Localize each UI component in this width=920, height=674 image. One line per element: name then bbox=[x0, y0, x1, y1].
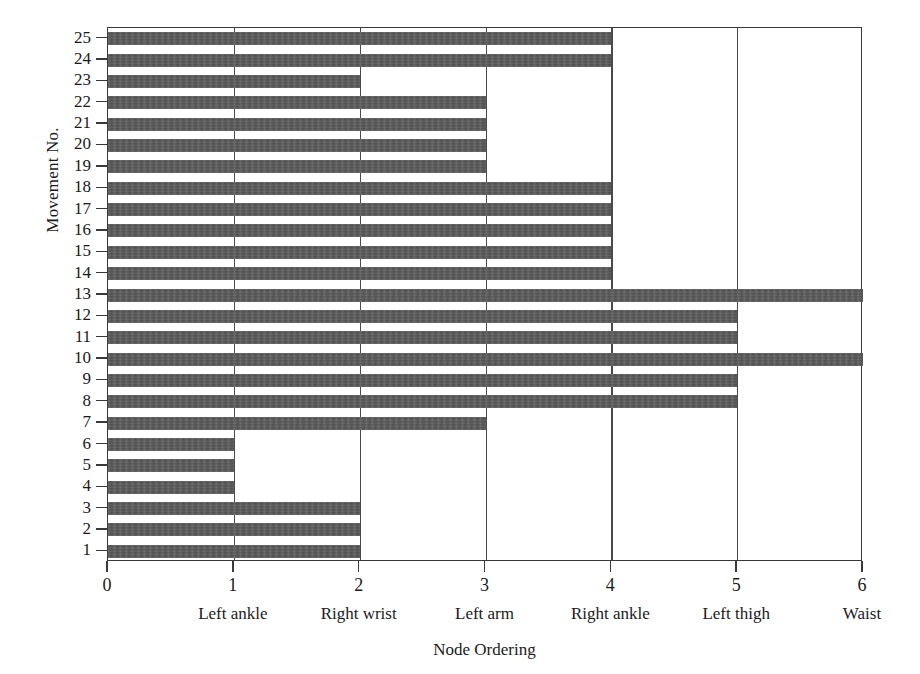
y-tick-22 bbox=[96, 101, 107, 102]
bar-movement-23 bbox=[108, 75, 360, 88]
y-tick-20 bbox=[96, 144, 107, 145]
x-tick-6 bbox=[861, 561, 862, 572]
bar-chart-figure: Movement No. 123456789101112131415161718… bbox=[0, 0, 920, 674]
x-tick-1 bbox=[232, 561, 233, 572]
y-tick-9 bbox=[96, 379, 107, 380]
bar-movement-11 bbox=[108, 331, 737, 344]
y-tick-label-14: 14 bbox=[49, 264, 91, 281]
bar-movement-5 bbox=[108, 459, 234, 472]
bar-movement-10 bbox=[108, 353, 863, 366]
bar-movement-9 bbox=[108, 374, 737, 387]
plot-inner bbox=[108, 28, 861, 560]
y-tick-11 bbox=[96, 336, 107, 337]
x-node-label-6: Waist bbox=[777, 604, 920, 624]
y-tick-6 bbox=[96, 443, 107, 444]
bar-movement-1 bbox=[108, 545, 360, 558]
y-tick-5 bbox=[96, 464, 107, 465]
bar-movement-24 bbox=[108, 54, 611, 67]
x-tick-2 bbox=[358, 561, 359, 572]
plot-area bbox=[107, 27, 862, 561]
y-tick-label-15: 15 bbox=[49, 242, 91, 259]
x-tick-label-6: 6 bbox=[832, 575, 892, 596]
bar-movement-14 bbox=[108, 267, 611, 280]
y-tick-label-10: 10 bbox=[49, 349, 91, 366]
y-tick-15 bbox=[96, 251, 107, 252]
x-tick-label-4: 4 bbox=[580, 575, 640, 596]
x-axis-title: Node Ordering bbox=[107, 640, 862, 660]
y-axis-labels: 1234567891011121314151617181920212223242… bbox=[0, 0, 91, 674]
y-tick-label-24: 24 bbox=[49, 50, 91, 67]
bar-movement-18 bbox=[108, 182, 611, 195]
y-tick-label-17: 17 bbox=[49, 200, 91, 217]
y-tick-label-6: 6 bbox=[49, 435, 91, 452]
y-tick-14 bbox=[96, 272, 107, 273]
x-tick-label-3: 3 bbox=[455, 575, 515, 596]
bar-movement-20 bbox=[108, 139, 486, 152]
y-tick-8 bbox=[96, 400, 107, 401]
y-tick-label-13: 13 bbox=[49, 285, 91, 302]
x-tick-5 bbox=[735, 561, 736, 572]
y-tick-label-7: 7 bbox=[49, 413, 91, 430]
x-tick-label-1: 1 bbox=[203, 575, 263, 596]
x-tick-4 bbox=[610, 561, 611, 572]
y-tick-19 bbox=[96, 165, 107, 166]
bar-movement-15 bbox=[108, 246, 611, 259]
y-tick-label-19: 19 bbox=[49, 157, 91, 174]
y-tick-label-2: 2 bbox=[49, 520, 91, 537]
y-tick-label-23: 23 bbox=[49, 71, 91, 88]
y-tick-1 bbox=[96, 550, 107, 551]
y-tick-21 bbox=[96, 122, 107, 123]
x-tick-label-5: 5 bbox=[706, 575, 766, 596]
bar-movement-3 bbox=[108, 502, 360, 515]
bar-movement-8 bbox=[108, 395, 737, 408]
y-tick-label-9: 9 bbox=[49, 370, 91, 387]
x-tick-label-2: 2 bbox=[329, 575, 389, 596]
bar-movement-16 bbox=[108, 224, 611, 237]
bar-movement-4 bbox=[108, 481, 234, 494]
y-tick-label-22: 22 bbox=[49, 93, 91, 110]
y-tick-label-8: 8 bbox=[49, 392, 91, 409]
y-tick-label-18: 18 bbox=[49, 178, 91, 195]
y-tick-24 bbox=[96, 58, 107, 59]
y-tick-18 bbox=[96, 187, 107, 188]
y-tick-4 bbox=[96, 486, 107, 487]
y-tick-label-20: 20 bbox=[49, 135, 91, 152]
bar-movement-2 bbox=[108, 523, 360, 536]
bar-movement-25 bbox=[108, 32, 611, 45]
y-tick-17 bbox=[96, 208, 107, 209]
y-tick-10 bbox=[96, 357, 107, 358]
y-tick-12 bbox=[96, 315, 107, 316]
bar-movement-7 bbox=[108, 417, 486, 430]
y-tick-label-3: 3 bbox=[49, 499, 91, 516]
x-tick-label-0: 0 bbox=[77, 575, 137, 596]
x-tick-3 bbox=[484, 561, 485, 572]
bar-movement-13 bbox=[108, 289, 863, 302]
bar-movement-12 bbox=[108, 310, 737, 323]
bar-movement-22 bbox=[108, 96, 486, 109]
bar-movement-17 bbox=[108, 203, 611, 216]
y-tick-2 bbox=[96, 528, 107, 529]
y-tick-label-11: 11 bbox=[49, 328, 91, 345]
y-tick-label-4: 4 bbox=[49, 477, 91, 494]
y-tick-label-1: 1 bbox=[49, 541, 91, 558]
y-tick-label-16: 16 bbox=[49, 221, 91, 238]
y-tick-13 bbox=[96, 293, 107, 294]
y-tick-16 bbox=[96, 229, 107, 230]
y-tick-label-21: 21 bbox=[49, 114, 91, 131]
bar-movement-6 bbox=[108, 438, 234, 451]
y-tick-label-25: 25 bbox=[49, 29, 91, 46]
bar-movement-21 bbox=[108, 118, 486, 131]
y-tick-7 bbox=[96, 421, 107, 422]
x-tick-0 bbox=[106, 561, 107, 572]
y-tick-label-5: 5 bbox=[49, 456, 91, 473]
y-tick-3 bbox=[96, 507, 107, 508]
y-tick-25 bbox=[96, 37, 107, 38]
y-tick-23 bbox=[96, 80, 107, 81]
bar-movement-19 bbox=[108, 160, 486, 173]
y-tick-label-12: 12 bbox=[49, 306, 91, 323]
